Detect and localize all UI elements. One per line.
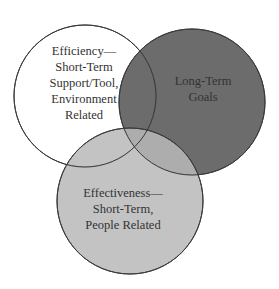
circle-effectiveness — [57, 128, 203, 274]
effectiveness-line-2: Short-Term, — [93, 202, 154, 216]
long-term-line-1: Long-Term — [175, 74, 232, 88]
efficiency-line-4: Environment — [51, 92, 117, 106]
efficiency-line-5: Related — [65, 108, 104, 122]
efficiency-line-2: Short-Term — [55, 60, 113, 74]
efficiency-line-1: Efficiency— — [52, 44, 117, 58]
efficiency-line-3: Support/Tool, — [50, 76, 119, 90]
effectiveness-line-3: People Related — [85, 218, 161, 232]
long-term-line-2: Goals — [188, 90, 217, 104]
label-effectiveness: Effectiveness— Short-Term, People Relate… — [83, 186, 163, 232]
effectiveness-line-1: Effectiveness— — [83, 186, 163, 200]
venn-diagram: Efficiency— Short-Term Support/Tool, Env… — [0, 0, 279, 289]
